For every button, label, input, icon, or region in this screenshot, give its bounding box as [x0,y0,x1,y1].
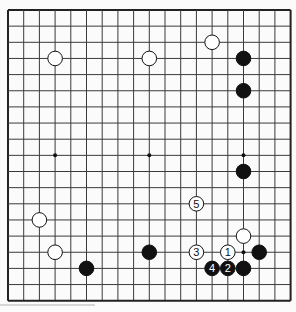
black-stone [252,245,267,260]
move-number: 5 [193,198,199,210]
star-point [53,153,57,157]
white-stone [48,245,63,260]
black-stone [236,51,251,66]
stone-circle [142,51,157,66]
white-stone [48,51,63,66]
white-stone-move-5: 5 [189,197,204,212]
black-stone [236,261,251,276]
footer-divider [0,304,95,306]
stone-circle [48,51,63,66]
star-point [147,153,151,157]
black-stone-move-2: 2 [221,261,236,276]
black-stone [236,83,251,98]
move-number: 1 [225,246,231,258]
star-point [242,153,246,157]
stone-circle [236,164,251,179]
stone-circle [236,83,251,98]
move-number: 3 [193,246,199,258]
go-board: 53142 [0,0,296,312]
stone-circle [236,51,251,66]
black-stone [79,261,94,276]
white-stone-move-3: 3 [189,245,204,260]
white-stone [205,35,220,50]
stone-circle [236,261,251,276]
white-stone-move-1: 1 [221,245,236,260]
stone-circle [205,35,220,50]
move-number: 4 [209,262,215,274]
white-stone [236,229,251,244]
black-stone [236,164,251,179]
stone-circle [252,245,267,260]
black-stone-move-4: 4 [205,261,220,276]
stone-circle [79,261,94,276]
stone-circle [236,229,251,244]
star-point [242,250,246,254]
stone-circle [48,245,63,260]
stone-circle [142,245,157,260]
white-stone [142,51,157,66]
move-number: 2 [225,262,231,274]
black-stone [142,245,157,260]
white-stone [32,213,47,228]
stone-circle [32,213,47,228]
